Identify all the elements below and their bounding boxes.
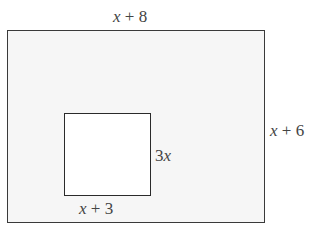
inner-height-label: 3x xyxy=(155,147,171,164)
outer-width-label: x + 8 xyxy=(113,8,147,25)
inner-rectangle xyxy=(64,113,151,196)
inner-width-label: x + 3 xyxy=(79,200,113,217)
outer-height-label: x + 6 xyxy=(270,122,304,139)
